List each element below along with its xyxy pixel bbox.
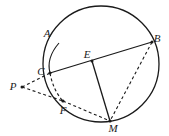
arc-a-c-inner: [49, 43, 59, 73]
point-dot-f: [61, 99, 64, 102]
arc-c-f-inner: [50, 73, 63, 101]
segment-e-m: [92, 61, 110, 121]
vertex-label-m: M: [108, 123, 117, 134]
vertex-label-p: P: [10, 81, 17, 92]
chord-f-m: [63, 101, 110, 121]
point-dot-e: [91, 60, 94, 63]
chord-c-b: [50, 42, 152, 73]
vertex-label-f: F: [60, 105, 67, 116]
chord-b-m: [110, 42, 152, 121]
geometry-figure: A B C E F M P: [0, 0, 169, 136]
point-dot-p: [21, 86, 24, 89]
vertex-label-e: E: [84, 49, 91, 60]
vertex-label-c: C: [37, 66, 44, 77]
vertex-label-a: A: [44, 28, 51, 39]
point-dot-c: [48, 71, 51, 74]
vertex-label-b: B: [154, 33, 161, 44]
geometry-canvas: [0, 0, 169, 136]
secant-p-f: [22, 87, 63, 101]
